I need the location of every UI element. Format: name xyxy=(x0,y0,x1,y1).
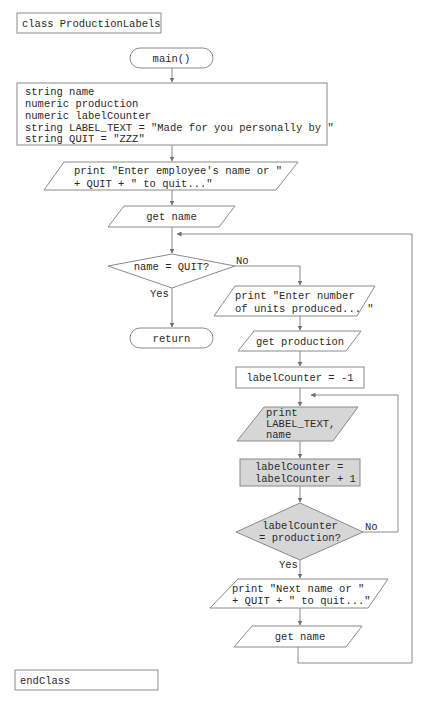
input-get-production: get production xyxy=(238,331,361,351)
process-line: labelCounter = xyxy=(255,461,343,473)
prompt-units-produced: print "Enter number of units produced...… xyxy=(214,286,375,316)
prompt-next-name: print "Next name or " + QUIT + " to quit… xyxy=(210,579,388,608)
declaration-line: string name xyxy=(25,86,94,98)
prompt-line: print "Enter employee's name or " xyxy=(74,165,282,177)
end-terminal-label: return xyxy=(153,333,191,345)
prompt-employee-name: print "Enter employee's name or " + QUIT… xyxy=(44,162,298,190)
class-header-box: class ProductionLabels xyxy=(17,13,161,33)
process-init-counter: labelCounter = -1 xyxy=(236,367,364,388)
prompt-line: print "Next name or " xyxy=(232,583,364,595)
branch-label-yes: Yes xyxy=(150,288,169,300)
class-footer-label: endClass xyxy=(20,675,70,687)
prompt-line: + QUIT + " to quit..." xyxy=(74,178,213,190)
output-print-label: print LABEL_TEXT, name xyxy=(237,407,358,441)
declaration-line: numeric labelCounter xyxy=(25,110,151,122)
output-line: name xyxy=(266,429,291,441)
decision-label: name = QUIT? xyxy=(134,261,210,273)
start-terminal: main() xyxy=(130,48,213,68)
prompt-line: + QUIT + " to quit..." xyxy=(232,595,371,607)
input-get-name: get name xyxy=(108,206,235,227)
branch-label-yes: Yes xyxy=(279,559,298,571)
declarations-box: string name numeric production numeric l… xyxy=(17,83,334,145)
declaration-line: string QUIT = "ZZZ" xyxy=(25,133,145,145)
input-label: get name xyxy=(275,631,325,643)
prompt-line: of units produced... " xyxy=(235,303,374,315)
connector-arrow xyxy=(235,266,300,285)
process-increment-counter: labelCounter = labelCounter + 1 xyxy=(240,459,360,486)
class-header-label: class ProductionLabels xyxy=(22,18,161,30)
decision-line: = production? xyxy=(259,532,341,544)
decision-counter-production: labelCounter = production? xyxy=(236,503,363,560)
flowchart-canvas: class ProductionLabels main() string nam… xyxy=(0,0,428,702)
prompt-line: print "Enter number xyxy=(235,290,355,302)
input-get-name-2: get name xyxy=(234,626,362,647)
process-label: labelCounter = -1 xyxy=(246,372,353,384)
process-line: labelCounter + 1 xyxy=(255,473,356,485)
input-label: get name xyxy=(146,211,196,223)
input-label: get production xyxy=(256,336,344,348)
class-footer-box: endClass xyxy=(15,670,158,690)
decision-name-quit: name = QUIT? xyxy=(108,254,235,288)
branch-label-no: No xyxy=(236,255,249,267)
branch-label-no: No xyxy=(365,521,378,533)
declaration-line: numeric production xyxy=(25,98,138,110)
start-terminal-label: main() xyxy=(153,53,191,65)
decision-line: labelCounter xyxy=(262,520,338,532)
end-terminal: return xyxy=(130,328,213,348)
